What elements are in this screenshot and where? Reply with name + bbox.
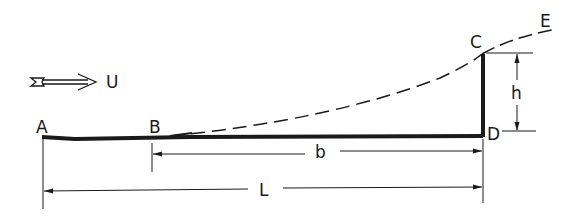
flow-arrow-icon [31, 74, 96, 90]
dimension-b-label: b [315, 142, 326, 162]
separation-streamline [170, 54, 482, 136]
flat-plate-step-diagram: U A B C D E b L h [0, 0, 583, 223]
point-e-label: E [540, 11, 551, 31]
point-d-label: D [487, 124, 500, 144]
plate-surface [42, 136, 483, 139]
point-a-label: A [36, 117, 48, 137]
point-b-label: B [149, 117, 161, 137]
dimension-h-label: h [511, 83, 522, 103]
flow-velocity-label: U [106, 72, 118, 92]
reattached-streamline [482, 30, 552, 54]
point-c-label: C [470, 32, 482, 52]
dimension-l-label: L [259, 180, 269, 200]
